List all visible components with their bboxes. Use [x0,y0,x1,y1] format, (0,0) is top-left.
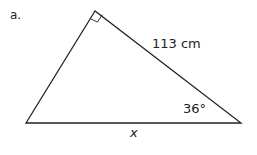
hypotenuse-side-label: 113 cm [152,36,201,51]
right-triangle-diagram [0,0,257,155]
angle-label: 36° [183,101,206,116]
triangle [26,11,241,123]
base-label: x [130,125,138,140]
